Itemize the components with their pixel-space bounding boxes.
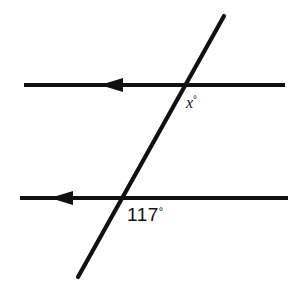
angle-label-x: x° <box>186 94 197 111</box>
angle-117-value: 117 <box>127 204 159 225</box>
geometry-figure: x° 117° <box>0 0 299 291</box>
transversal-line <box>78 16 224 277</box>
degree-symbol-icon: ° <box>159 205 164 217</box>
geometry-canvas <box>0 0 299 291</box>
angle-label-117: 117° <box>127 205 164 224</box>
bottom-line-arrow-icon <box>50 191 73 205</box>
top-line-arrow-icon <box>100 78 123 92</box>
degree-symbol-icon: ° <box>193 94 197 105</box>
